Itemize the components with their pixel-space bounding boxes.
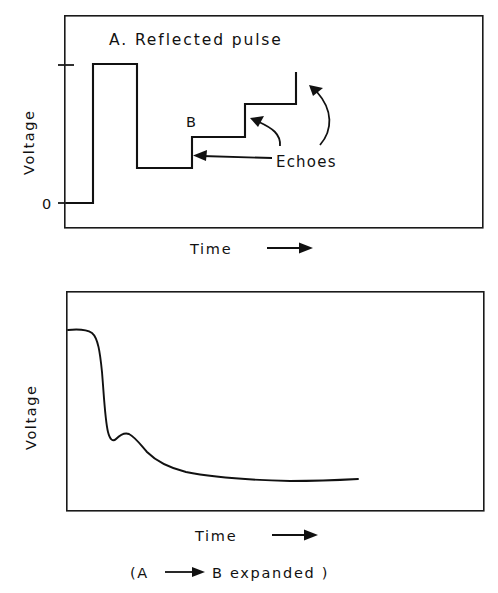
panel-a-y-axis-label: Voltage (21, 109, 37, 175)
echo-leader-3 (309, 85, 329, 145)
echo-arrowhead-2 (250, 116, 264, 127)
echo-leader-2 (250, 116, 280, 146)
caption-open-text: (A (130, 565, 149, 581)
panel-a-waveform-trace (66, 64, 296, 203)
panel-a-zero-label: 0 (42, 196, 52, 212)
panel-a-time-arrow (267, 243, 313, 254)
echo-arrowhead-1 (193, 150, 207, 161)
echo-leader-1 (193, 150, 272, 161)
caption-close-text: B expanded ) (212, 565, 329, 581)
panel-a-step-label: B (186, 114, 197, 130)
panel-b-frame (67, 292, 484, 511)
panel-b: Voltage Time B expanded ) --> (A B expan… (23, 292, 484, 581)
panel-a-echoes-label: Echoes (276, 153, 337, 171)
panel-a: A. Reflected pulse B Echoes 0 Voltage Ti… (21, 16, 483, 257)
caption-arrow (165, 567, 205, 577)
panel-b-x-axis-label: Time (194, 528, 237, 544)
panel-a-x-axis-label: Time (189, 241, 232, 257)
panel-b-y-axis-label: Voltage (23, 384, 39, 450)
panel-b-caption: (A B expanded ) (130, 565, 329, 581)
panel-b-decay-curve (68, 329, 358, 481)
panel-a-title: A. Reflected pulse (109, 31, 283, 49)
panel-b-time-arrow (272, 530, 318, 541)
figure-canvas: A. Reflected pulse B Echoes 0 Voltage Ti… (0, 0, 498, 593)
echo-arrowhead-3 (309, 85, 323, 96)
figure-root: A. Reflected pulse B Echoes 0 Voltage Ti… (0, 0, 498, 593)
